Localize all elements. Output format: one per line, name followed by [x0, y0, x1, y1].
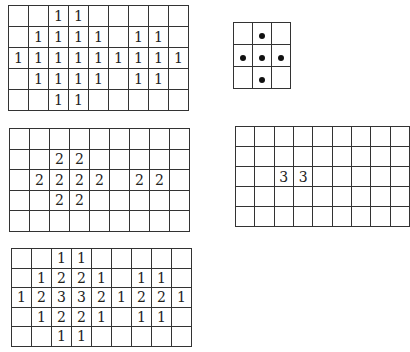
grid-cell [150, 129, 170, 150]
grid-row: 222222 [10, 170, 190, 191]
grid-cell: 1 [49, 90, 69, 111]
grid-cell [89, 90, 109, 111]
grid-cell [149, 6, 169, 27]
grid-cell [109, 27, 129, 48]
dot-icon [278, 55, 284, 61]
grid-cell [313, 167, 332, 187]
grid-cell: 1 [149, 48, 169, 69]
grid-cell: 1 [32, 268, 52, 288]
grid-cell [352, 207, 371, 227]
grid-cell: 2 [130, 170, 150, 191]
grid-cell: 1 [149, 27, 169, 48]
grid-cell [236, 207, 255, 227]
grid-cell [30, 211, 50, 232]
grid-cell [332, 147, 351, 167]
grid-cell: 2 [72, 268, 92, 288]
grid-cell [169, 90, 189, 111]
grid-cell: 2 [52, 307, 72, 327]
grid-cell [390, 207, 409, 227]
grid-cell [236, 187, 255, 207]
grid-cell: 1 [172, 288, 192, 308]
grid-cell: 1 [49, 27, 69, 48]
grid-cell: 1 [109, 48, 129, 69]
dot-icon [259, 77, 265, 83]
grid-cell [10, 129, 30, 150]
grid-row: 111111111 [9, 48, 189, 69]
grid-cell: 1 [129, 69, 149, 90]
grid-cell [352, 167, 371, 187]
grid-cell [390, 167, 409, 187]
grid-cell [132, 249, 152, 269]
grid-cell [390, 147, 409, 167]
grid-cell: 1 [52, 249, 72, 269]
grid-cell: 1 [92, 307, 112, 327]
grid-cell [130, 211, 150, 232]
sum-grid: 1112211112332122112211111 [11, 248, 192, 347]
grid-cell: 1 [92, 268, 112, 288]
grid-row: 11 [12, 327, 192, 347]
grid-cell [352, 127, 371, 147]
grid-cell: 2 [52, 268, 72, 288]
grid-row: 33 [236, 167, 410, 187]
grid-cell: 1 [29, 69, 49, 90]
grid-cell [32, 327, 52, 347]
grid-cell: 1 [69, 48, 89, 69]
grid-cell: 1 [29, 48, 49, 69]
grid-row [236, 207, 410, 227]
grid-cell [50, 129, 70, 150]
grid-cell [332, 127, 351, 147]
grid-cell [149, 90, 169, 111]
grid-cell [170, 149, 190, 170]
grid-cell [234, 45, 253, 67]
grid-cell: 1 [152, 307, 172, 327]
grid-cell: 2 [72, 307, 92, 327]
grid-cell: 3 [72, 288, 92, 308]
grid-cell: 1 [129, 48, 149, 69]
grid-cell [30, 129, 50, 150]
grid-cell [29, 90, 49, 111]
grid-cell: 2 [70, 190, 90, 211]
grid-cell [9, 6, 29, 27]
grid-cell [172, 327, 192, 347]
grid-cell [352, 147, 371, 167]
grid-row [234, 67, 291, 89]
grid-cell: 2 [70, 149, 90, 170]
grid-cell: 1 [132, 307, 152, 327]
grid-cell: 1 [149, 69, 169, 90]
grid-cell [255, 147, 274, 167]
grid-cell [110, 190, 130, 211]
grid-cell [255, 187, 274, 207]
grid-cell [112, 268, 132, 288]
grid-cell [172, 249, 192, 269]
grid-cell [129, 6, 149, 27]
grid-cell [12, 249, 32, 269]
grid-cell: 2 [150, 170, 170, 191]
grid-cell: 1 [52, 327, 72, 347]
grid-cell [274, 187, 293, 207]
grid-cell [294, 187, 313, 207]
grid-cell [152, 327, 172, 347]
grid-cell [130, 149, 150, 170]
grid-cell [10, 149, 30, 170]
grid-cell [274, 207, 293, 227]
grid-row [236, 187, 410, 207]
grid-cell: 1 [89, 69, 109, 90]
grid-cell [169, 6, 189, 27]
grid-cell: 3 [294, 167, 313, 187]
grid-cell [313, 207, 332, 227]
grid-cell [371, 187, 390, 207]
grid-cell: 1 [69, 69, 89, 90]
input-grid: 1111111111111111111111111 [8, 5, 189, 111]
grid-cell [10, 211, 30, 232]
grid-cell [30, 190, 50, 211]
grid-cell [253, 45, 272, 67]
grid-cell [294, 147, 313, 167]
grid-cell [371, 167, 390, 187]
grid-cell [313, 147, 332, 167]
grid-row: 11 [9, 90, 189, 111]
grid-cell [89, 6, 109, 27]
grid-cell [170, 129, 190, 150]
grid-cell [371, 147, 390, 167]
grid-cell: 1 [49, 6, 69, 27]
grid-cell: 2 [50, 170, 70, 191]
